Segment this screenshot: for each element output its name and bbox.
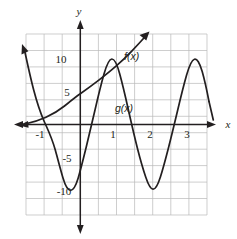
x-tick-label-neg1: -1 xyxy=(35,128,44,140)
y-axis-arrow-up xyxy=(77,20,84,29)
x-axis-label: x xyxy=(225,118,231,130)
y-tick-label-10: 10 xyxy=(56,53,68,65)
coordinate-plane: 10 5 -5 -10 -1 1 2 3 y x f(x) g(x) xyxy=(0,0,237,239)
y-axis-arrow-down xyxy=(77,225,84,234)
graph-figure: 10 5 -5 -10 -1 1 2 3 y x f(x) g(x) xyxy=(0,0,237,239)
x-tick-label-3: 3 xyxy=(184,128,190,140)
y-tick-label-neg5: -5 xyxy=(62,152,72,164)
x-tick-label-2: 2 xyxy=(147,128,153,140)
curve-f-arrow-end xyxy=(140,32,150,41)
curve-g-tail xyxy=(209,102,213,121)
curve-label-g: g(x) xyxy=(115,102,133,114)
y-tick-label-neg10: -10 xyxy=(57,185,72,197)
y-tick-label-5: 5 xyxy=(64,86,70,98)
x-tick-label-1: 1 xyxy=(110,128,116,140)
y-axis-label: y xyxy=(76,5,82,17)
curve-label-f: f(x) xyxy=(124,50,139,62)
curve-labels: f(x) g(x) xyxy=(115,50,139,114)
x-axis-arrow-right xyxy=(207,121,216,128)
